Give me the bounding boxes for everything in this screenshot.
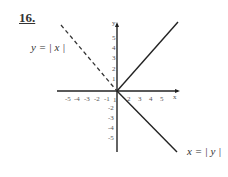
svg-text:5: 5 xyxy=(112,34,116,42)
svg-text:4: 4 xyxy=(112,44,116,52)
svg-text:-5: -5 xyxy=(108,134,114,142)
svg-text:-5: -5 xyxy=(65,95,71,103)
svg-text:-3: -3 xyxy=(84,95,90,103)
svg-text:-4: -4 xyxy=(74,95,80,103)
svg-text:4: 4 xyxy=(149,95,153,103)
svg-text:-2: -2 xyxy=(108,104,114,112)
svg-text:-2: -2 xyxy=(94,95,100,103)
solid-upper-line xyxy=(117,22,178,91)
svg-text:1: 1 xyxy=(112,75,116,83)
dashed-line xyxy=(61,25,117,91)
svg-text:5: 5 xyxy=(160,95,164,103)
svg-text:1: 1 xyxy=(113,96,117,104)
svg-text:2: 2 xyxy=(127,95,131,103)
graph: -5-4-3-2-1 1 2345 x y 54321 -2-3-4-5 xyxy=(0,0,228,177)
svg-text:-1: -1 xyxy=(104,95,110,103)
svg-text:-3: -3 xyxy=(108,114,114,122)
svg-text:x: x xyxy=(173,93,177,101)
svg-text:2: 2 xyxy=(112,65,116,73)
svg-text:-4: -4 xyxy=(108,124,114,132)
svg-text:y: y xyxy=(112,19,116,27)
solid-lower-line xyxy=(117,91,177,152)
svg-text:3: 3 xyxy=(138,95,142,103)
svg-text:3: 3 xyxy=(112,54,116,62)
y-axis-arrow-icon xyxy=(115,22,119,27)
